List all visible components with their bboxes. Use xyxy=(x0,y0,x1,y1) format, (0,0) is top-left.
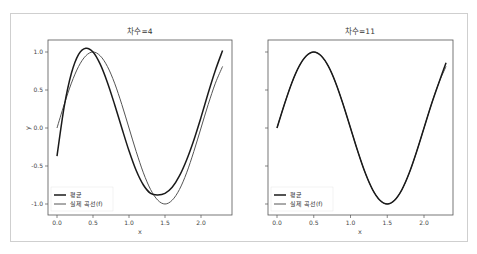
x-tick-label: 1.0 xyxy=(124,219,134,226)
panel-title: 차수=11 xyxy=(345,27,375,36)
x-tick-label: 2.0 xyxy=(419,219,429,226)
x-tick-label: 0.0 xyxy=(272,219,282,226)
y-axis-ticks: 1.00.50.0-0.5-1.0 xyxy=(31,48,48,207)
mean-curve xyxy=(57,48,223,195)
legend-label-true: 실제 곡선(f) xyxy=(290,200,323,208)
y-axis-ticks xyxy=(265,52,268,204)
x-tick-label: 1.5 xyxy=(382,219,392,226)
y-axis-label: y xyxy=(24,126,32,130)
y-tick-label: 0.5 xyxy=(33,86,43,93)
curves xyxy=(57,48,223,204)
panel-title: 차수=4 xyxy=(127,27,152,36)
x-axis-ticks: 0.00.51.01.52.0 xyxy=(272,215,429,226)
mean-curve xyxy=(277,52,446,204)
x-axis-label: x xyxy=(358,228,362,236)
x-axis-ticks: 0.00.51.01.52.0 xyxy=(52,215,206,226)
x-tick-label: 0.5 xyxy=(309,219,319,226)
y-tick-label: -0.5 xyxy=(31,162,43,169)
legend: 평균 실제 곡선(f) xyxy=(51,187,113,211)
curves xyxy=(277,52,446,204)
y-tick-label: 1.0 xyxy=(33,48,43,55)
x-tick-label: 2.0 xyxy=(196,219,206,226)
panel-degree-4: 차수=4 1.00.50.0-0.5-1.0 0.00.51.01.52.0 x… xyxy=(24,27,232,236)
y-tick-label: 0.0 xyxy=(33,124,43,131)
x-tick-label: 1.0 xyxy=(346,219,356,226)
legend-box xyxy=(271,187,333,211)
figure: 차수=4 1.00.50.0-0.5-1.0 0.00.51.01.52.0 x… xyxy=(0,0,477,254)
legend-box xyxy=(51,187,113,211)
legend-label-mean: 평균 xyxy=(70,191,82,198)
legend-label-true: 실제 곡선(f) xyxy=(70,200,103,208)
x-tick-label: 0.5 xyxy=(88,219,98,226)
x-tick-label: 1.5 xyxy=(160,219,170,226)
y-tick-label: -1.0 xyxy=(31,200,43,207)
legend: 평균 실제 곡선(f) xyxy=(271,187,333,211)
legend-label-mean: 평균 xyxy=(290,191,302,198)
true-curve xyxy=(277,52,446,204)
x-tick-label: 0.0 xyxy=(52,219,62,226)
panel-degree-11: 차수=11 0.00.51.01.52.0 x 평균 실제 곡선(f) xyxy=(265,27,453,236)
x-axis-label: x xyxy=(138,228,142,236)
